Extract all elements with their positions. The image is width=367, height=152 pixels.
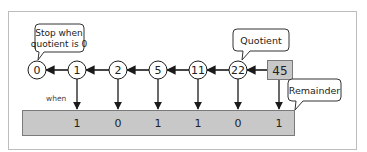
remainder-digit: 1 [74, 117, 81, 130]
svg-text:11: 11 [191, 64, 205, 77]
svg-text:Remainder: Remainder [289, 85, 341, 96]
remainder-digit: 1 [195, 117, 202, 130]
svg-text:0: 0 [34, 64, 41, 77]
quotient-node: 22 [229, 61, 247, 79]
remainder-digit: 0 [115, 117, 122, 130]
svg-text:45: 45 [272, 64, 287, 78]
svg-text:22: 22 [231, 64, 245, 77]
start-value-box: 45 [268, 61, 293, 80]
quotient-node: 5 [149, 61, 167, 79]
svg-text:2: 2 [115, 64, 122, 77]
quotient-node: 11 [189, 61, 207, 79]
svg-text:Quotient: Quotient [240, 35, 282, 46]
quotient-node: 2 [109, 61, 127, 79]
quotient-node: 1 [68, 61, 86, 79]
remainder-digit: 0 [235, 117, 242, 130]
svg-text:quotient is 0: quotient is 0 [31, 39, 88, 49]
svg-text:5: 5 [155, 64, 162, 77]
remainder-digit: 1 [155, 117, 162, 130]
binary-conversion-diagram: 45 22 11 5 2 1 0 1 0 1 1 0 1 when Stop w… [0, 0, 367, 152]
when-label: when [46, 94, 67, 103]
svg-text:1: 1 [74, 64, 81, 77]
remainder-digit: 1 [276, 117, 283, 130]
quotient-node: 0 [28, 61, 46, 79]
svg-text:Stop when: Stop when [35, 28, 83, 38]
